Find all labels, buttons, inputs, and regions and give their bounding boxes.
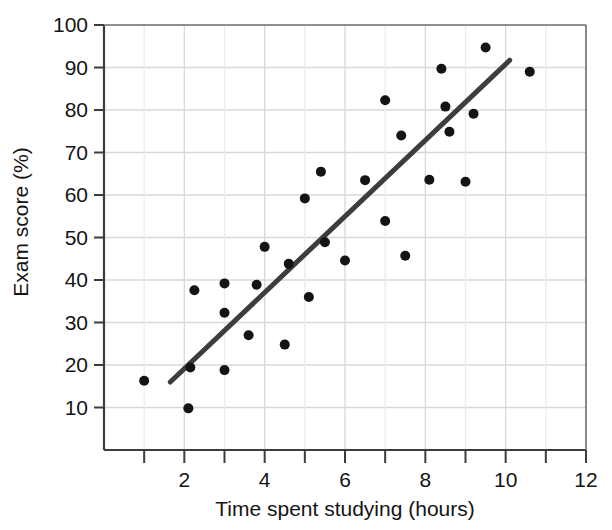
data-point — [304, 292, 314, 302]
x-axis-tick-labels: 24681012 — [178, 468, 597, 491]
x-axis-ticks — [144, 450, 586, 463]
data-point — [139, 376, 149, 386]
y-tick-label: 40 — [65, 268, 88, 291]
data-point — [461, 177, 471, 187]
data-point — [320, 237, 330, 247]
y-axis-tick-labels: 102030405060708090100 — [53, 13, 88, 419]
data-point — [220, 278, 230, 288]
data-point — [396, 131, 406, 141]
data-point — [280, 340, 290, 350]
data-point — [444, 127, 454, 137]
data-point — [244, 330, 254, 340]
data-point — [185, 363, 195, 373]
data-point — [469, 109, 479, 119]
data-point — [481, 43, 491, 53]
x-tick-label: 6 — [339, 468, 351, 491]
data-point — [220, 365, 230, 375]
trend-line-segment — [170, 60, 509, 382]
data-point — [300, 193, 310, 203]
data-point — [316, 167, 326, 177]
data-point — [340, 255, 350, 265]
data-point — [260, 242, 270, 252]
x-axis-title: Time spent studying (hours) — [215, 497, 475, 520]
data-point — [380, 95, 390, 105]
data-point — [360, 175, 370, 185]
y-tick-label: 100 — [53, 13, 88, 36]
data-point — [440, 102, 450, 112]
data-point — [400, 251, 410, 261]
trend-line — [170, 60, 509, 382]
x-tick-label: 10 — [494, 468, 517, 491]
plot-canvas: 102030405060708090100 24681012 Time spen… — [0, 0, 612, 530]
y-tick-label: 20 — [65, 353, 88, 376]
y-tick-label: 70 — [65, 141, 88, 164]
y-axis-ticks — [94, 25, 104, 408]
data-point — [436, 64, 446, 74]
x-tick-label: 2 — [178, 468, 190, 491]
y-tick-label: 60 — [65, 183, 88, 206]
data-point — [183, 403, 193, 413]
y-tick-label: 50 — [65, 226, 88, 249]
y-tick-label: 10 — [65, 396, 88, 419]
x-tick-label: 12 — [574, 468, 597, 491]
data-point — [252, 280, 262, 290]
y-tick-label: 90 — [65, 56, 88, 79]
data-point — [189, 285, 199, 295]
data-point — [424, 175, 434, 185]
data-point — [220, 308, 230, 318]
scatter-plot-figure: 102030405060708090100 24681012 Time spen… — [0, 0, 612, 530]
y-axis-title: Exam score (%) — [9, 147, 32, 296]
x-tick-label: 4 — [259, 468, 271, 491]
grid-lines — [104, 25, 586, 450]
data-point — [525, 67, 535, 77]
x-tick-label: 8 — [419, 468, 431, 491]
y-tick-label: 30 — [65, 311, 88, 334]
data-point — [284, 259, 294, 269]
data-point — [380, 216, 390, 226]
y-tick-label: 80 — [65, 98, 88, 121]
